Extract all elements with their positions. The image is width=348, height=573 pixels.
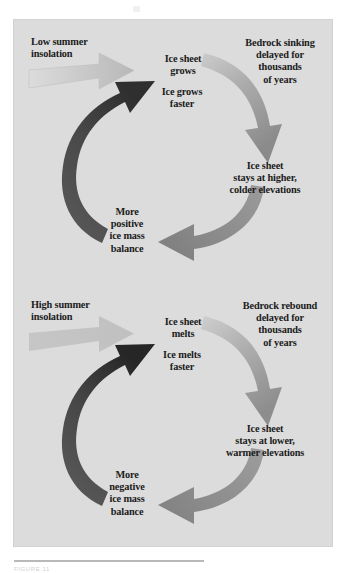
label-ice-sheet-grows: Ice sheet grows	[140, 53, 226, 77]
label-bedrock-rebound: Bedrock rebound delayed for thousands of…	[226, 300, 334, 349]
label-stays-at-higher: Ice sheet stays at higher, colder elevat…	[198, 160, 332, 197]
label-low-summer-insolation: Low summer insolation	[31, 36, 143, 60]
figure-caption: FIGURE 11	[14, 566, 214, 572]
figure-root: Low summer insolation Ice sheet grows Ic…	[0, 0, 348, 573]
label-ice-sheet-melts: Ice sheet melts	[140, 316, 226, 340]
label-high-summer-insolation: High summer insolation	[31, 299, 143, 323]
label-bedrock-sinking: Bedrock sinking delayed for thousands of…	[228, 37, 332, 86]
label-more-negative-mass-balance: More negative ice mass balance	[88, 469, 166, 518]
label-ice-melts-faster: Ice melts faster	[134, 349, 230, 373]
label-more-positive-mass-balance: More positive ice mass balance	[88, 206, 166, 255]
label-ice-grows-faster: Ice grows faster	[134, 86, 230, 110]
scan-artifact-speck	[133, 6, 140, 12]
cycle-deglaciation: High summer insolation Ice sheet melts I…	[14, 283, 332, 546]
diagram-panel: Low summer insolation Ice sheet grows Ic…	[14, 20, 332, 546]
cycle-glacial-growth: Low summer insolation Ice sheet grows Ic…	[14, 20, 332, 283]
caption-divider-rule	[14, 560, 204, 562]
label-stays-at-lower: Ice sheet stays at lower, warmer elevati…	[198, 423, 332, 460]
